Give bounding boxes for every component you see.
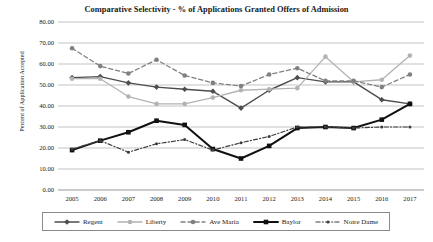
x-tick-label: 2007 [122,195,136,202]
plot-area: 0.0010.0020.0030.0040.0050.0060.0070.008… [0,0,433,242]
y-tick-label: 20.00 [39,144,55,151]
legend-item-label: Notre Dame [343,218,378,226]
data-point [126,71,131,76]
data-point [98,76,103,81]
data-point [268,135,271,138]
data-point [71,148,74,151]
data-point [351,79,356,84]
data-point [154,118,159,123]
y-tick-label: 40.00 [39,102,55,109]
legend-item-notre-dame[interactable]: Notre Dame [315,217,378,227]
data-point [98,64,103,69]
x-axis-ticks: 2005200620072008200920102011201220132014… [65,195,417,202]
series-liberty [70,53,412,106]
series-ave-maria [70,46,412,89]
data-point [182,123,187,128]
legend-marker-icon [127,219,132,224]
data-point [211,81,216,86]
data-point [296,126,299,129]
x-tick-label: 2009 [178,195,192,202]
data-point [70,76,75,81]
data-point [240,141,243,144]
data-point [154,58,159,63]
data-point [126,130,131,135]
legend-marker-icon [263,219,268,224]
series-notre-dame [71,126,412,154]
x-tick-label: 2010 [206,195,220,202]
data-point [267,87,272,92]
data-point [154,102,159,107]
x-tick-label: 2008 [150,195,164,202]
data-point [379,85,384,90]
x-tick-label: 2005 [65,195,79,202]
y-tick-label: 0.00 [42,186,54,193]
data-point [127,151,130,154]
chart-container: Comparative Selectivity - % of Applicati… [0,0,433,242]
data-point [267,72,272,77]
series-line [72,127,410,152]
y-tick-label: 80.00 [39,18,55,25]
legend-item-label: Baylor [281,218,301,226]
data-point [239,84,244,89]
legend-marker-icon [191,219,196,224]
x-tick-label: 2015 [347,195,361,202]
x-tick-label: 2013 [291,195,305,202]
x-tick-label: 2017 [403,195,417,202]
data-point [70,46,75,51]
x-tick-label: 2012 [263,195,276,202]
y-tick-label: 30.00 [39,123,55,130]
legend-swatch-icon [117,217,143,227]
legend-swatch-icon [253,217,279,227]
legend-item-ave-maria[interactable]: Ave Maria [180,217,239,227]
data-point [211,149,214,152]
data-point [239,156,244,161]
data-point [352,127,355,130]
legend-swatch-icon [180,217,206,227]
data-point [379,117,384,122]
data-point [408,102,413,107]
y-tick-label: 50.00 [39,81,55,88]
legend-marker-icon [326,220,329,223]
data-point [295,75,301,81]
data-point [155,142,158,145]
data-point [182,73,187,78]
legend-item-regent[interactable]: Regent [54,217,103,227]
legend: RegentLibertyAve MariaBaylorNotre Dame [42,212,390,231]
legend-item-liberty[interactable]: Liberty [117,217,167,227]
data-point [267,144,272,149]
data-point [408,126,411,129]
legend-item-baylor[interactable]: Baylor [253,217,301,227]
data-point [323,54,328,59]
legend-item-label: Liberty [145,218,167,226]
data-point [99,139,102,142]
x-tick-label: 2011 [235,195,248,202]
x-tick-label: 2016 [375,195,389,202]
x-tick-label: 2014 [319,195,333,202]
legend-marker-icon [64,219,70,225]
data-point [408,72,413,77]
data-point [324,126,327,129]
data-point [182,86,188,92]
data-series-group [69,46,412,161]
data-point [295,66,300,71]
series-line [72,56,410,104]
data-point [182,102,187,107]
legend-item-label: Regent [82,218,103,226]
legend-swatch-icon [315,217,341,227]
data-point [408,53,413,58]
y-tick-label: 10.00 [39,165,55,172]
data-point [126,94,131,99]
y-tick-label: 70.00 [39,39,55,46]
x-tick-label: 2006 [94,195,108,202]
data-point [380,126,383,129]
data-point [295,86,300,91]
data-point [379,77,384,82]
legend-swatch-icon [54,217,80,227]
data-point [323,79,328,84]
y-tick-label: 60.00 [39,60,55,67]
data-point [211,95,216,100]
legend-item-label: Ave Maria [208,218,239,226]
data-point [183,138,186,141]
y-axis-ticks: 0.0010.0020.0030.0040.0050.0060.0070.008… [39,18,55,193]
data-point [239,88,244,93]
